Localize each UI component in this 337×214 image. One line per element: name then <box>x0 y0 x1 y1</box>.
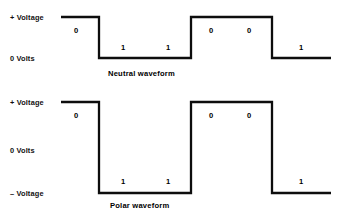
polar-bit-label-6: 1 <box>299 178 303 186</box>
waveform-figure: + Voltage 0 Volts 0 1 1 0 0 1 Neutral wa… <box>0 0 337 214</box>
polar-bit-label-3: 1 <box>166 178 170 186</box>
polar-waveform-line <box>61 102 331 193</box>
polar-bit-label-1: 0 <box>74 112 78 120</box>
polar-bit-label-4: 0 <box>209 112 213 120</box>
polar-waveform-caption: Polar waveform <box>110 202 169 210</box>
polar-bit-label-5: 0 <box>247 112 251 120</box>
polar-bit-label-2: 1 <box>121 178 125 186</box>
